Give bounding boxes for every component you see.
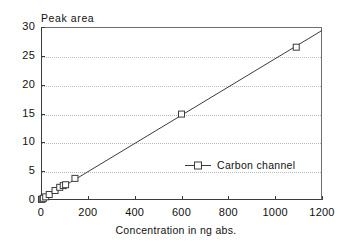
y-axis-title: Peak area	[41, 12, 94, 24]
y-tick-label-5: 5	[3, 164, 35, 176]
y-tick-label-0: 0	[3, 193, 35, 205]
y-tick-label-30: 30	[3, 20, 35, 32]
legend-marker-carbon-channel	[185, 160, 211, 171]
data-point-marker	[293, 44, 299, 50]
x-axis-title: Concentration in ng abs.	[0, 224, 352, 236]
x-tick-label-400: 400	[113, 206, 157, 218]
data-point-marker	[72, 175, 78, 181]
x-tick-label-1000: 1000	[253, 206, 297, 218]
y-tick-label-20: 20	[3, 78, 35, 90]
calibration-chart-figure: Peak area 051015202530 02004006008001000…	[0, 0, 352, 245]
y-tick-label-10: 10	[3, 135, 35, 147]
x-tickmark-1200	[322, 196, 323, 200]
legend: Carbon channel	[183, 158, 297, 172]
data-point-marker	[63, 182, 69, 188]
legend-label-carbon-channel: Carbon channel	[217, 159, 295, 171]
data-point-marker	[179, 111, 185, 117]
x-tick-label-800: 800	[206, 206, 250, 218]
series-layer	[41, 27, 322, 200]
x-tick-label-200: 200	[66, 206, 110, 218]
x-tick-label-600: 600	[160, 206, 204, 218]
y-tick-label-25: 25	[3, 49, 35, 61]
y-tick-label-15: 15	[3, 107, 35, 119]
x-tick-label-1200: 1200	[300, 206, 344, 218]
x-tick-label-0: 0	[19, 206, 63, 218]
data-point-marker	[46, 192, 52, 198]
